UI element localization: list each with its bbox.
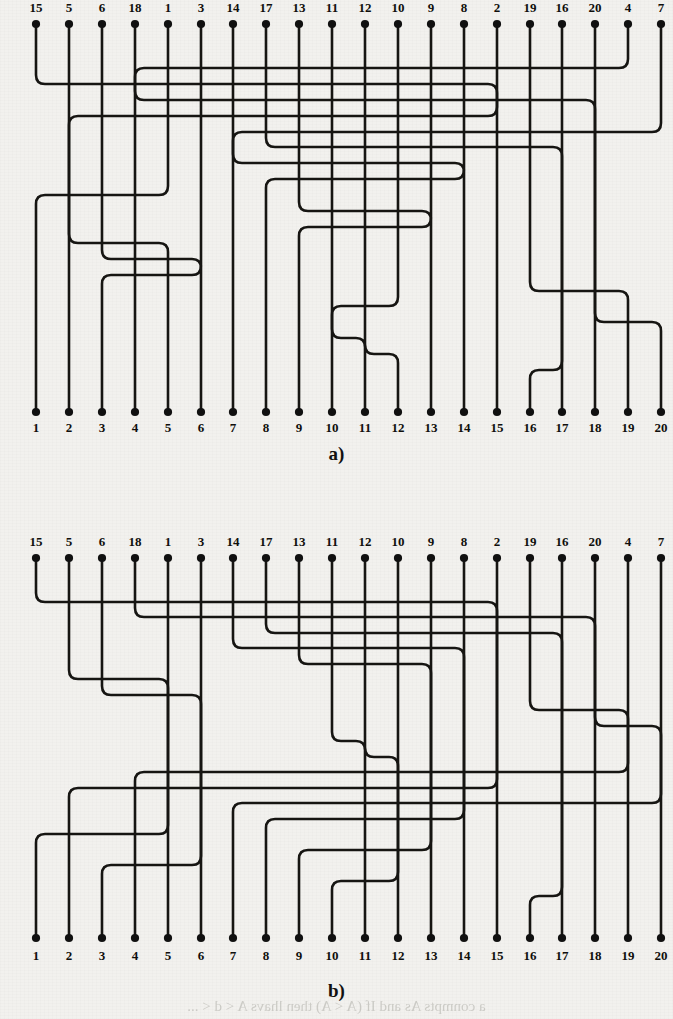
top-terminal-label-7: 14	[227, 534, 241, 549]
top-terminal-label-12: 10	[392, 534, 405, 549]
top-terminal-dot-10[interactable]	[328, 554, 336, 562]
top-terminal-dot-3[interactable]	[98, 20, 106, 28]
wire-net-17	[266, 24, 562, 412]
bottom-terminal-dot-13[interactable]	[427, 934, 435, 942]
top-terminal-dot-13[interactable]	[427, 554, 435, 562]
wire-net-16	[530, 24, 562, 412]
bottom-terminal-dot-6[interactable]	[197, 408, 205, 416]
top-terminal-dot-12[interactable]	[394, 554, 402, 562]
bottom-terminal-dot-3[interactable]	[98, 408, 106, 416]
top-terminal-label-11: 12	[359, 0, 372, 15]
bottom-terminal-dot-1[interactable]	[32, 934, 40, 942]
top-terminal-dot-5[interactable]	[164, 20, 172, 28]
top-terminal-dot-3[interactable]	[98, 554, 106, 562]
bottom-terminal-dot-10[interactable]	[328, 934, 336, 942]
bottom-terminal-label-13: 13	[425, 420, 439, 435]
bottom-terminal-dot-2[interactable]	[65, 934, 73, 942]
top-terminal-dot-19[interactable]	[624, 20, 632, 28]
bottom-terminal-dot-8[interactable]	[262, 408, 270, 416]
bottom-terminal-dot-6[interactable]	[197, 934, 205, 942]
bottom-terminal-dot-11[interactable]	[361, 934, 369, 942]
top-terminal-dot-2[interactable]	[65, 554, 73, 562]
top-terminal-label-19: 4	[625, 534, 632, 549]
bottom-terminal-dot-9[interactable]	[295, 408, 303, 416]
bottom-terminal-dot-18[interactable]	[591, 408, 599, 416]
top-terminal-dot-1[interactable]	[32, 20, 40, 28]
bottom-terminal-label-16: 16	[524, 420, 538, 435]
bottom-terminal-dot-7[interactable]	[229, 408, 237, 416]
bottom-terminal-dot-19[interactable]	[624, 408, 632, 416]
top-terminal-dot-15[interactable]	[493, 554, 501, 562]
top-terminal-dot-9[interactable]	[295, 554, 303, 562]
bottom-terminal-dot-9[interactable]	[295, 934, 303, 942]
bottom-terminal-dot-12[interactable]	[394, 934, 402, 942]
bottom-terminal-dot-5[interactable]	[164, 408, 172, 416]
top-terminal-dot-17[interactable]	[558, 554, 566, 562]
top-terminal-dot-19[interactable]	[624, 554, 632, 562]
bottom-terminal-dot-18[interactable]	[591, 934, 599, 942]
bottom-terminal-dot-14[interactable]	[460, 934, 468, 942]
top-terminal-dot-11[interactable]	[361, 20, 369, 28]
bottom-terminal-dot-17[interactable]	[558, 934, 566, 942]
top-terminal-dot-7[interactable]	[229, 20, 237, 28]
bottom-terminal-label-20: 20	[655, 420, 668, 435]
bottom-terminal-dot-19[interactable]	[624, 934, 632, 942]
top-terminal-dot-9[interactable]	[295, 20, 303, 28]
top-terminal-dot-8[interactable]	[262, 554, 270, 562]
wire-net-14	[233, 24, 464, 412]
bottom-terminal-dot-15[interactable]	[493, 934, 501, 942]
top-terminal-dot-6[interactable]	[197, 554, 205, 562]
bottom-terminal-label-5: 5	[165, 420, 172, 435]
top-terminal-dot-4[interactable]	[131, 554, 139, 562]
bottom-terminal-dot-17[interactable]	[558, 408, 566, 416]
bottom-terminal-dot-16[interactable]	[526, 408, 534, 416]
top-terminal-dot-11[interactable]	[361, 554, 369, 562]
top-terminal-label-17: 16	[556, 0, 570, 15]
top-terminal-dot-10[interactable]	[328, 20, 336, 28]
top-terminal-dot-18[interactable]	[591, 20, 599, 28]
bottom-terminal-dot-20[interactable]	[657, 408, 665, 416]
bottom-terminal-dot-14[interactable]	[460, 408, 468, 416]
top-terminal-dot-18[interactable]	[591, 554, 599, 562]
bottom-terminal-label-15: 15	[491, 948, 505, 963]
bottom-terminal-dot-12[interactable]	[394, 408, 402, 416]
bottom-terminal-dot-3[interactable]	[98, 934, 106, 942]
bottom-terminal-dot-16[interactable]	[526, 934, 534, 942]
top-terminal-dot-1[interactable]	[32, 554, 40, 562]
bottom-terminal-dot-4[interactable]	[131, 408, 139, 416]
wire-net-16	[530, 558, 562, 938]
panel-b-caption: b)	[0, 980, 673, 1002]
top-terminal-dot-6[interactable]	[197, 20, 205, 28]
top-terminal-dot-20[interactable]	[657, 20, 665, 28]
top-terminal-dot-20[interactable]	[657, 554, 665, 562]
bottom-terminal-dot-15[interactable]	[493, 408, 501, 416]
top-terminal-dot-17[interactable]	[558, 20, 566, 28]
bottom-terminal-dot-2[interactable]	[65, 408, 73, 416]
top-terminal-dot-15[interactable]	[493, 20, 501, 28]
top-terminal-dot-13[interactable]	[427, 20, 435, 28]
top-terminal-label-5: 1	[165, 534, 172, 549]
bottom-terminal-dot-10[interactable]	[328, 408, 336, 416]
bottom-terminal-dot-5[interactable]	[164, 934, 172, 942]
top-terminal-dot-14[interactable]	[460, 20, 468, 28]
top-terminal-dot-16[interactable]	[526, 20, 534, 28]
top-terminal-dot-2[interactable]	[65, 20, 73, 28]
top-terminal-dot-12[interactable]	[394, 20, 402, 28]
top-terminal-dot-16[interactable]	[526, 554, 534, 562]
bottom-terminal-dot-20[interactable]	[657, 934, 665, 942]
top-terminal-dot-7[interactable]	[229, 554, 237, 562]
bottom-terminal-label-14: 14	[458, 948, 472, 963]
bottom-terminal-label-7: 7	[230, 420, 237, 435]
top-terminal-label-11: 12	[359, 534, 372, 549]
top-terminal-dot-5[interactable]	[164, 554, 172, 562]
bottom-terminal-dot-8[interactable]	[262, 934, 270, 942]
bottom-terminal-dot-1[interactable]	[32, 408, 40, 416]
top-terminal-dot-8[interactable]	[262, 20, 270, 28]
bottom-terminal-dot-7[interactable]	[229, 934, 237, 942]
top-terminal-dot-14[interactable]	[460, 554, 468, 562]
bottom-terminal-dot-11[interactable]	[361, 408, 369, 416]
bottom-terminal-dot-13[interactable]	[427, 408, 435, 416]
bottom-terminal-label-8: 8	[263, 420, 270, 435]
bottom-terminal-dot-4[interactable]	[131, 934, 139, 942]
top-terminal-dot-4[interactable]	[131, 20, 139, 28]
